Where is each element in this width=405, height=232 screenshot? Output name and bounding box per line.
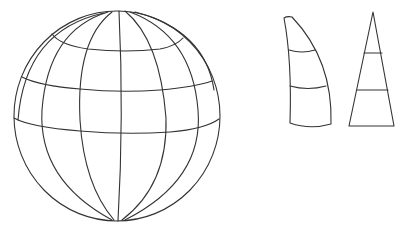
gore-segment xyxy=(284,17,331,127)
globe-outline xyxy=(14,11,220,221)
gore-band-line-2 xyxy=(290,86,326,89)
latitude-line-upper xyxy=(52,34,183,51)
triangle-projection xyxy=(349,12,394,126)
meridian-far-right xyxy=(135,12,214,90)
meridian-far-left xyxy=(18,13,104,120)
globe xyxy=(14,11,220,221)
latitude-line-equator xyxy=(14,118,219,133)
meridian-center xyxy=(118,11,121,221)
gore-band-line-1 xyxy=(289,50,315,52)
meridian-outer-right xyxy=(125,12,198,220)
diagram-canvas xyxy=(0,0,405,232)
meridian-inner-left xyxy=(80,12,114,220)
triangle-outline xyxy=(349,12,394,126)
meridian-outer-left xyxy=(42,12,112,220)
latitude-line-middle xyxy=(22,77,212,91)
gore-outline xyxy=(284,17,331,127)
meridian-inner-right xyxy=(122,11,166,220)
